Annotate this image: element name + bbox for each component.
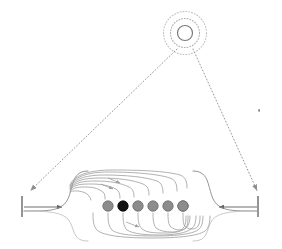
sight-line-left — [31, 49, 178, 191]
upper-flux-curves-group — [70, 170, 187, 200]
target-middle-dotted-circle — [171, 19, 200, 48]
lower-flow-arrow — [126, 222, 139, 227]
sight-line-right — [193, 49, 257, 191]
target-inner-circle — [178, 26, 193, 41]
stray-dot — [258, 109, 260, 111]
stray-mark-group — [258, 109, 260, 111]
upper-flux-curve-inner — [70, 191, 91, 200]
diagram-canvas — [0, 0, 282, 249]
lower-flux-curve — [93, 213, 210, 238]
sight-lines-group — [31, 49, 258, 191]
lower-flux-curve — [168, 213, 188, 230]
upper-flux-curve — [70, 187, 105, 199]
target-group — [164, 12, 207, 55]
right-lower-separatrix-curve — [193, 211, 257, 241]
right-separatrix-curve — [193, 171, 257, 211]
field-node[interactable] — [163, 201, 173, 211]
field-node[interactable] — [103, 201, 113, 211]
field-node-row — [103, 201, 188, 211]
field-node[interactable] — [118, 201, 128, 211]
field-node-highlighted[interactable] — [133, 201, 143, 211]
left-lower-separatrix-curve — [24, 211, 88, 241]
upper-flow-arrow — [101, 184, 113, 189]
lower-flux-curves-group — [93, 213, 210, 238]
upper-flux-curve — [70, 181, 134, 197]
figure-root — [0, 0, 282, 249]
lower-flux-curve — [153, 213, 186, 232]
field-node[interactable] — [148, 201, 158, 211]
field-node[interactable] — [178, 201, 188, 211]
